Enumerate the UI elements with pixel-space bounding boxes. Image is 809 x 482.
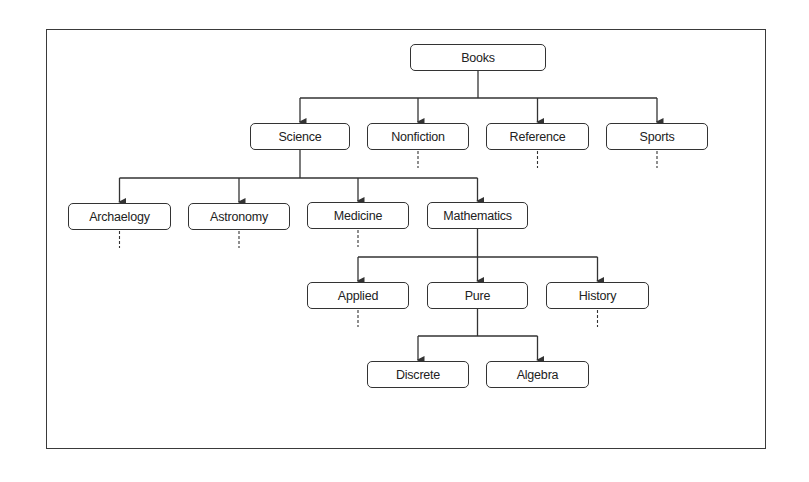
node-medicine: Medicine — [307, 202, 409, 229]
node-discrete: Discrete — [367, 361, 469, 388]
node-pure: Pure — [427, 282, 528, 309]
node-history: History — [546, 282, 649, 309]
node-sports: Sports — [606, 123, 708, 150]
node-books: Books — [410, 44, 546, 71]
node-astronomy: Astronomy — [188, 203, 290, 230]
node-algebra: Algebra — [486, 361, 589, 388]
node-mathematics: Mathematics — [427, 202, 528, 229]
node-nonfiction: Nonfiction — [367, 123, 469, 150]
node-reference: Reference — [486, 123, 589, 150]
node-science: Science — [250, 123, 350, 150]
node-applied: Applied — [307, 282, 409, 309]
node-archaeology: Archaelogy — [68, 203, 171, 230]
connector-lines — [0, 0, 809, 482]
